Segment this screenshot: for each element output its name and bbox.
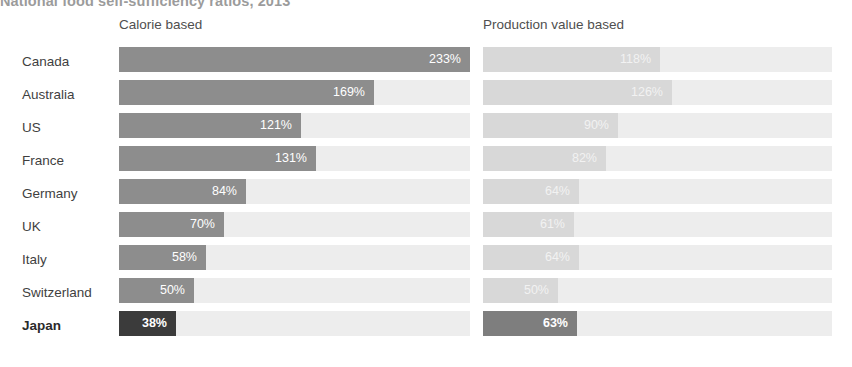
chart-rows: Canada233%118%Australia169%126%US121%90%…	[0, 44, 852, 341]
calorie-track: 70%	[119, 212, 470, 237]
country-label: Canada	[22, 53, 69, 68]
production-bar: 64%	[483, 245, 579, 270]
production-bar: 126%	[483, 80, 672, 105]
production-bar: 82%	[483, 146, 606, 171]
country-label: France	[22, 152, 64, 167]
calorie-bar: 121%	[119, 113, 301, 138]
country-label: Australia	[22, 86, 75, 101]
production-track: 64%	[483, 245, 832, 270]
production-value: 50%	[524, 284, 549, 297]
calorie-value: 131%	[275, 152, 307, 165]
country-label: US	[22, 119, 41, 134]
production-bar: 64%	[483, 179, 579, 204]
production-track: 118%	[483, 47, 832, 72]
calorie-bar: 58%	[119, 245, 206, 270]
production-track: 90%	[483, 113, 832, 138]
calorie-value: 70%	[190, 218, 215, 231]
production-value: 82%	[572, 152, 597, 165]
production-track: 61%	[483, 212, 832, 237]
table-row: Switzerland50%50%	[0, 275, 852, 308]
calorie-value: 84%	[212, 185, 237, 198]
country-label: UK	[22, 218, 41, 233]
production-value: 126%	[631, 86, 663, 99]
table-row: Canada233%118%	[0, 44, 852, 77]
calorie-value: 233%	[429, 53, 461, 66]
calorie-track: 58%	[119, 245, 470, 270]
production-value: 63%	[543, 317, 568, 330]
table-row: Germany84%64%	[0, 176, 852, 209]
table-row: UK70%61%	[0, 209, 852, 242]
calorie-bar: 131%	[119, 146, 316, 171]
table-row: Italy58%64%	[0, 242, 852, 275]
calorie-value: 169%	[333, 86, 365, 99]
production-track: 126%	[483, 80, 832, 105]
calorie-track: 84%	[119, 179, 470, 204]
chart-page: National food self-sufficiency ratios, 2…	[0, 0, 852, 367]
production-track: 63%	[483, 311, 832, 336]
country-label: Japan	[22, 317, 61, 332]
calorie-bar: 233%	[119, 47, 470, 72]
country-label: Switzerland	[22, 284, 92, 299]
calorie-bar: 84%	[119, 179, 246, 204]
calorie-track: 169%	[119, 80, 470, 105]
calorie-track: 50%	[119, 278, 470, 303]
chart-title: National food self-sufficiency ratios, 2…	[0, 0, 290, 9]
table-row: Australia169%126%	[0, 77, 852, 110]
calorie-track: 38%	[119, 311, 470, 336]
column-header-production-value-based: Production value based	[483, 17, 624, 32]
table-row: France131%82%	[0, 143, 852, 176]
column-header-calorie-based: Calorie based	[119, 17, 202, 32]
calorie-value: 50%	[160, 284, 185, 297]
calorie-bar: 70%	[119, 212, 224, 237]
calorie-value: 38%	[142, 317, 167, 330]
calorie-value: 121%	[260, 119, 292, 132]
calorie-bar: 169%	[119, 80, 374, 105]
calorie-track: 233%	[119, 47, 470, 72]
production-bar: 63%	[483, 311, 577, 336]
production-value: 90%	[584, 119, 609, 132]
production-bar: 118%	[483, 47, 660, 72]
calorie-track: 121%	[119, 113, 470, 138]
table-row: Japan38%63%	[0, 308, 852, 341]
production-track: 64%	[483, 179, 832, 204]
calorie-bar: 50%	[119, 278, 194, 303]
production-track: 50%	[483, 278, 832, 303]
production-bar: 61%	[483, 212, 574, 237]
production-value: 64%	[545, 185, 570, 198]
production-value: 118%	[620, 53, 651, 66]
production-bar: 50%	[483, 278, 558, 303]
calorie-track: 131%	[119, 146, 470, 171]
calorie-value: 58%	[172, 251, 197, 264]
production-track: 82%	[483, 146, 832, 171]
calorie-bar: 38%	[119, 311, 176, 336]
production-value: 64%	[545, 251, 570, 264]
table-row: US121%90%	[0, 110, 852, 143]
production-value: 61%	[540, 218, 565, 231]
country-label: Germany	[22, 185, 78, 200]
country-label: Italy	[22, 251, 47, 266]
production-bar: 90%	[483, 113, 618, 138]
